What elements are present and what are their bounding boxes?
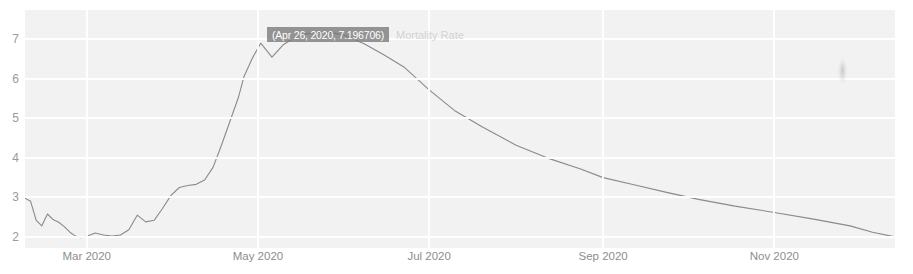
mortality-rate-line-chart: 765432 (Apr 26, 2020, 7.196706) Mortalit… bbox=[0, 0, 913, 274]
gridline-vertical bbox=[602, 10, 604, 248]
data-point-tooltip: (Apr 26, 2020, 7.196706) bbox=[267, 27, 389, 42]
mortality-rate-series bbox=[25, 10, 895, 248]
gridline-horizontal bbox=[25, 117, 895, 119]
gridline-horizontal bbox=[25, 157, 895, 159]
y-axis-tick-label: 2 bbox=[0, 231, 19, 243]
y-axis-tick-label: 7 bbox=[0, 33, 19, 45]
x-axis-tick-label: Nov 2020 bbox=[750, 250, 799, 262]
plot-area bbox=[25, 10, 895, 248]
series-legend-label: Mortality Rate bbox=[396, 29, 464, 41]
y-axis-tick-label: 4 bbox=[0, 152, 19, 164]
gridline-vertical bbox=[86, 10, 88, 248]
x-axis-tick-label: Sep 2020 bbox=[579, 250, 628, 262]
y-axis-tick-label: 3 bbox=[0, 191, 19, 203]
x-axis: Mar 2020May 2020Jul 2020Sep 2020Nov 2020 bbox=[25, 250, 895, 270]
gridline-vertical bbox=[257, 10, 259, 248]
tooltip-text: (Apr 26, 2020, 7.196706) bbox=[272, 29, 384, 41]
gridline-horizontal bbox=[25, 78, 895, 80]
gridline-horizontal bbox=[25, 236, 895, 238]
gridline-horizontal bbox=[25, 196, 895, 198]
x-axis-tick-label: Mar 2020 bbox=[62, 250, 111, 262]
y-axis-tick-label: 6 bbox=[0, 73, 19, 85]
gridline-vertical bbox=[428, 10, 430, 248]
gridline-vertical bbox=[773, 10, 775, 248]
y-axis-tick-label: 5 bbox=[0, 112, 19, 124]
x-axis-tick-label: Jul 2020 bbox=[407, 250, 450, 262]
x-axis-tick-label: May 2020 bbox=[233, 250, 284, 262]
y-axis: 765432 bbox=[0, 10, 25, 248]
